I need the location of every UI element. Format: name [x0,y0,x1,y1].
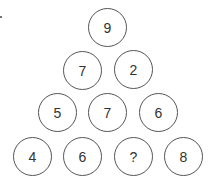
pyramid-cell: 7 [63,51,102,90]
pyramid-cell: 6 [63,137,102,176]
pyramid-cell: 4 [13,137,52,176]
pyramid-cell-unknown: ? [114,137,153,176]
pyramid-cell: 5 [38,93,77,132]
pyramid-cell: 6 [139,93,178,132]
pyramid-cell: 8 [164,137,203,176]
stray-mark [0,16,2,18]
pyramid-cell: 2 [114,50,153,89]
pyramid-cell: 7 [88,93,127,132]
pyramid-cell: 9 [88,8,127,47]
